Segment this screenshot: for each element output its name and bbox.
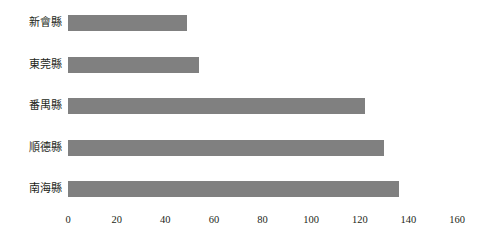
bar-row: 東莞縣: [0, 57, 501, 73]
x-tick-label: 80: [257, 212, 268, 228]
bar-chart: 新會縣東莞縣番禺縣順德縣南海縣 020406080100120140160: [0, 0, 501, 249]
x-tick-label: 140: [401, 212, 417, 228]
category-label: 新會縣: [0, 12, 62, 34]
x-tick-label: 20: [111, 212, 122, 228]
category-label: 東莞縣: [0, 54, 62, 76]
bar: [68, 98, 365, 114]
bar: [68, 15, 187, 31]
category-label: 南海縣: [0, 178, 62, 200]
bar-row: 順德縣: [0, 140, 501, 156]
bar-row: 新會縣: [0, 15, 501, 31]
bar: [68, 140, 384, 156]
category-label: 順德縣: [0, 137, 62, 159]
bar-row: 番禺縣: [0, 98, 501, 114]
x-tick-label: 0: [65, 212, 70, 228]
x-axis: 020406080100120140160: [0, 212, 501, 230]
x-tick-label: 40: [160, 212, 171, 228]
bar-row: 南海縣: [0, 181, 501, 197]
x-tick-label: 120: [352, 212, 368, 228]
x-tick-label: 160: [449, 212, 465, 228]
bar: [68, 181, 399, 197]
category-label: 番禺縣: [0, 95, 62, 117]
x-tick-label: 60: [209, 212, 220, 228]
x-tick-label: 100: [303, 212, 319, 228]
bar: [68, 57, 199, 73]
